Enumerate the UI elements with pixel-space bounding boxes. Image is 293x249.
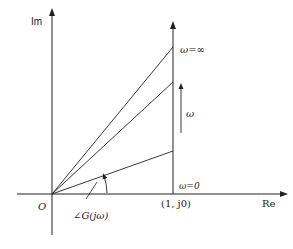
omega-direction-label: ω (186, 108, 194, 119)
diagram-svg: Im Re O (1, j0) ω=∞ ω=0 ω ∠G(jω) (0, 0, 293, 249)
omega-infinity-label: ω=∞ (180, 44, 205, 55)
im-axis-label: Im (31, 16, 42, 27)
point-label: (1, j0) (161, 198, 191, 209)
omega-zero-label: ω=0 (179, 181, 200, 191)
nyquist-diagram: Im Re O (1, j0) ω=∞ ω=0 ω ∠G(jω) (0, 0, 293, 249)
angle-label: ∠G(jω) (73, 210, 109, 221)
angle-arc (104, 176, 107, 193)
origin-label: O (38, 201, 46, 212)
angle-leader-line (86, 182, 97, 199)
ray-middle (52, 82, 173, 194)
re-axis-label: Re (262, 198, 276, 209)
ray-omega-infinity (52, 47, 173, 194)
